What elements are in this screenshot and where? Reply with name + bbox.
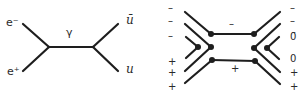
positron-line [23, 47, 49, 71]
right-charge-5: + [290, 67, 298, 78]
right-charge-4: 0 [290, 53, 296, 64]
left-charge-2: – [168, 15, 173, 26]
quark-line [93, 47, 118, 71]
left-charge-4: + [168, 56, 176, 67]
feynman-diagram-left [0, 0, 303, 98]
right-charge-1: – [290, 2, 295, 13]
right-charge-3: 0̄ [290, 31, 296, 42]
electron-line [23, 24, 49, 47]
vertex-dots [195, 31, 270, 64]
left-charge-1: – [168, 2, 173, 13]
left-charge-6: + [168, 81, 176, 92]
left-charge-3: – [168, 30, 173, 41]
photon-label: γ [66, 27, 73, 38]
positron-label: e⁺ [7, 66, 20, 77]
antiquark-line [93, 24, 118, 47]
electron-label: e⁻ [6, 17, 19, 28]
right-charge-2: – [290, 15, 295, 26]
left-charge-5: + [168, 67, 176, 78]
right-charge-6: + [290, 81, 298, 92]
middle-bottom-charge: + [231, 63, 239, 74]
antiquark-label: ū [126, 15, 134, 26]
middle-top-charge: – [229, 18, 234, 29]
quark-label: u [126, 64, 134, 75]
